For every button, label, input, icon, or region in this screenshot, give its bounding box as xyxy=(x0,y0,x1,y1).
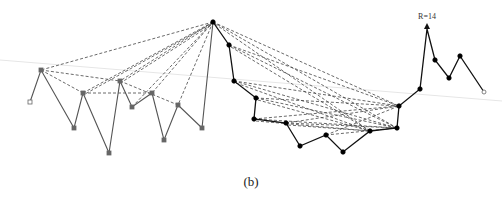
figure-caption: (b) xyxy=(0,174,502,190)
dashed-edge xyxy=(132,22,213,107)
dashed-edge xyxy=(178,22,213,105)
dashed-edge xyxy=(256,98,399,106)
right-node xyxy=(368,129,372,133)
dashed-edge xyxy=(213,22,399,106)
left-node xyxy=(81,91,85,95)
right-node xyxy=(458,54,462,58)
r-annotation-label: R=14 xyxy=(418,12,436,21)
right-node xyxy=(284,121,288,125)
dashed-edge xyxy=(213,22,397,128)
right-node xyxy=(211,20,215,24)
left-node xyxy=(200,126,204,130)
left-node xyxy=(72,126,76,130)
left-node xyxy=(162,138,166,142)
right-node xyxy=(324,133,328,137)
left-fan-dashed-edges xyxy=(41,22,213,107)
left-node xyxy=(28,100,32,104)
left-node xyxy=(176,103,180,107)
right-node xyxy=(447,76,451,80)
dashed-edge xyxy=(41,22,213,70)
right-node xyxy=(418,87,422,91)
peak-arrow-icon xyxy=(424,23,430,29)
right-node xyxy=(341,150,345,154)
dashed-edge xyxy=(83,22,213,93)
right-node xyxy=(227,43,231,47)
right-node xyxy=(254,96,258,100)
right-node xyxy=(232,79,236,83)
dashed-edge xyxy=(120,22,213,81)
left-node xyxy=(107,151,111,155)
left-node xyxy=(118,79,122,83)
right-node xyxy=(252,117,256,121)
graph-figure: R=14 xyxy=(0,0,502,199)
left-node xyxy=(130,105,134,109)
right-node xyxy=(397,104,401,108)
dashed-edge xyxy=(234,81,399,106)
dashed-edge xyxy=(85,24,211,94)
dashed-edge xyxy=(215,24,370,131)
right-node xyxy=(482,90,486,94)
left-node xyxy=(39,68,43,72)
right-node xyxy=(433,58,437,62)
right-node xyxy=(395,126,399,130)
dashed-edge xyxy=(41,70,120,81)
right-node xyxy=(298,144,302,148)
left-node xyxy=(150,91,154,95)
right-fan-dashed-edges xyxy=(213,22,399,135)
dashed-edge xyxy=(152,22,213,93)
